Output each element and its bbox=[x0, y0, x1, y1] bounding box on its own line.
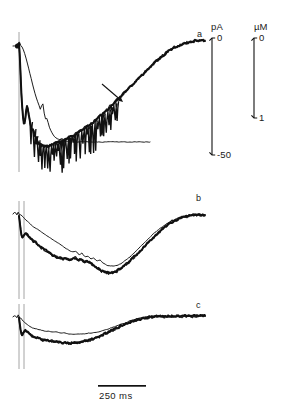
current-trace-a bbox=[19, 40, 205, 147]
concentration-scale-top-tick-label: 0 bbox=[259, 33, 264, 43]
onset-dot-panel-a bbox=[15, 43, 20, 48]
current-trace-b-noise bbox=[19, 214, 205, 275]
concentration-scale-bar bbox=[249, 34, 263, 122]
concentration-scale-unit-label: µM bbox=[254, 22, 268, 32]
current-scale-bar bbox=[207, 34, 221, 159]
current-scale-bottom-tick-label: -50 bbox=[217, 150, 231, 160]
panel-label-b: b bbox=[196, 194, 201, 203]
panel-label-c: c bbox=[196, 301, 201, 310]
figure-canvas: - - - - - - - - - - - a b c pA 0 -50 µM … bbox=[0, 0, 287, 408]
traces-plot-area bbox=[0, 0, 287, 408]
concentration-trace-a bbox=[13, 42, 150, 142]
current-scale-unit-label: pA bbox=[211, 22, 223, 32]
panel-label-a: a bbox=[197, 30, 202, 39]
concentration-scale-bottom-tick-label: 1 bbox=[259, 113, 264, 123]
time-scale-bar bbox=[96, 383, 148, 389]
current-trace-b bbox=[19, 214, 205, 273]
current-trace-c bbox=[19, 315, 205, 344]
time-scale-label: 250 ms bbox=[99, 391, 133, 401]
arrow-panel-a bbox=[102, 84, 118, 98]
current-scale-top-tick-label: 0 bbox=[217, 33, 222, 43]
